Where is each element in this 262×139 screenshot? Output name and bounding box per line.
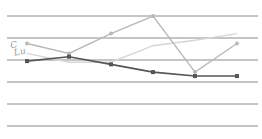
data-point-marker (25, 42, 29, 46)
data-point-marker (151, 14, 155, 18)
line-chart (0, 0, 262, 139)
gridlines (7, 16, 258, 126)
series-dark (25, 55, 239, 78)
data-point-marker (151, 70, 155, 74)
series-medium (25, 14, 239, 74)
data-point-marker (193, 70, 197, 74)
data-point-marker (235, 74, 239, 78)
data-point-marker (25, 59, 29, 63)
data-point-marker (193, 74, 197, 78)
annotation-mark: C Lu (9, 39, 26, 58)
annotation-line-2: Lu (13, 47, 26, 57)
data-point-marker (67, 55, 71, 59)
data-point-marker (109, 62, 113, 66)
series-layer (25, 14, 239, 78)
data-point-marker (235, 42, 239, 46)
series-medium-line (27, 16, 237, 72)
data-point-marker (109, 32, 113, 36)
